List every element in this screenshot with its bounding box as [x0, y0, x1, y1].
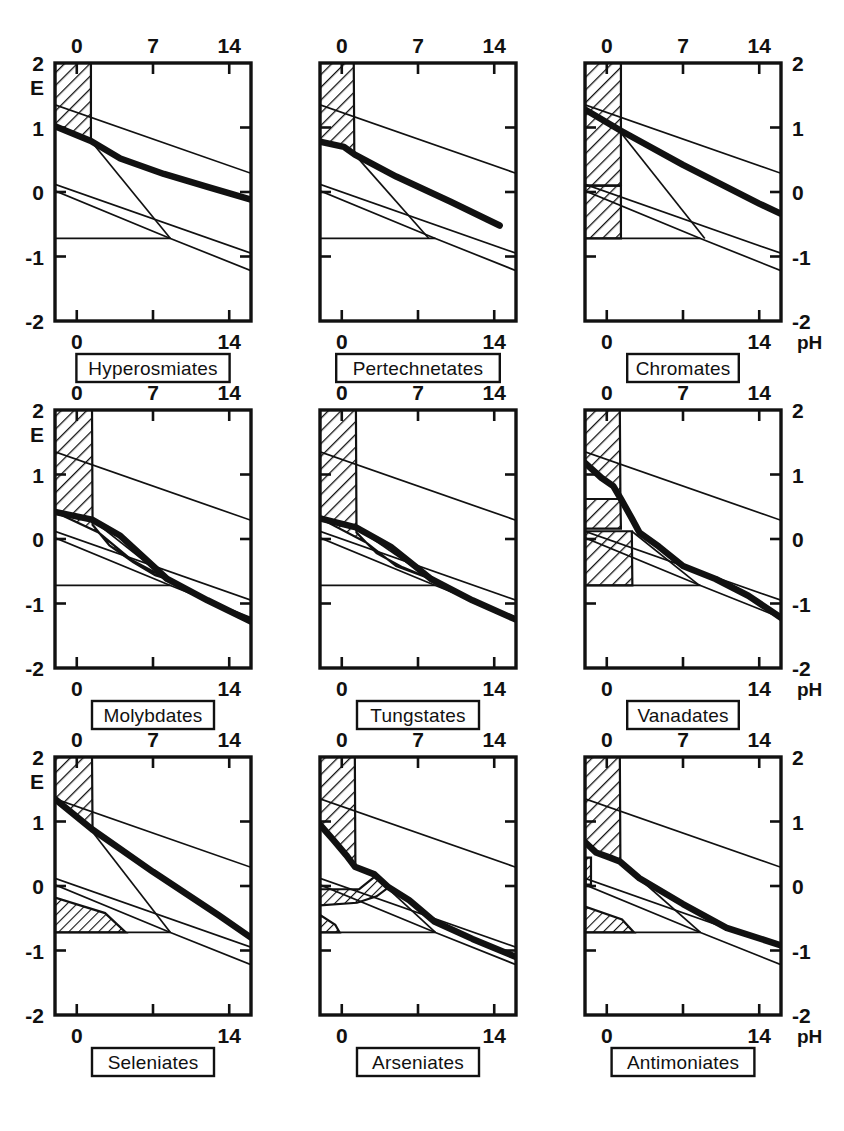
x-tick-label-top: 14 [218, 34, 242, 57]
x-tick-label-top: 0 [336, 728, 348, 751]
x-tick-label-top: 7 [412, 381, 424, 404]
y-tick-label: -1 [25, 246, 44, 269]
x-tick-label-top: 0 [71, 381, 83, 404]
x-tick-label-top: 7 [677, 34, 689, 57]
y-tick-label: 0 [32, 181, 44, 204]
x-tick-label-bottom: 0 [601, 1024, 613, 1047]
x-tick-label-top: 7 [147, 381, 159, 404]
x-axis-name: pH [797, 679, 822, 700]
figure-background [0, 0, 844, 1131]
x-tick-label-bottom: 14 [218, 677, 242, 700]
x-tick-label-bottom: 0 [336, 677, 348, 700]
x-tick-label-top: 0 [71, 34, 83, 57]
x-tick-label-bottom: 0 [71, 1024, 83, 1047]
x-tick-label-top: 14 [748, 34, 772, 57]
x-tick-label-top: 0 [71, 728, 83, 751]
pourbaix-figure: 0714014210-1-2EHyperosmiates0714014Perte… [0, 0, 844, 1131]
y-tick-label: -2 [25, 657, 44, 680]
x-tick-label-bottom: 14 [483, 677, 507, 700]
y-tick-label: 1 [32, 117, 44, 140]
y-axis-name: E [30, 770, 44, 793]
y-tick-label: 0 [32, 875, 44, 898]
panel-caption-label: Molybdates [103, 705, 202, 726]
x-tick-label-top: 7 [147, 34, 159, 57]
x-tick-label-top: 0 [601, 34, 613, 57]
y-tick-label: 1 [32, 811, 44, 834]
y-tick-label: -2 [25, 310, 44, 333]
x-tick-label-top: 7 [147, 728, 159, 751]
x-tick-label-bottom: 14 [748, 677, 772, 700]
panel-caption-label: Vanadates [637, 705, 728, 726]
y-tick-label: 2 [32, 746, 44, 769]
x-tick-label-top: 7 [677, 381, 689, 404]
x-tick-label-top: 7 [412, 728, 424, 751]
y-tick-label: 1 [792, 464, 804, 487]
y-tick-label: -2 [792, 1004, 811, 1027]
y-tick-label: 2 [32, 399, 44, 422]
x-tick-label-bottom: 0 [71, 330, 83, 353]
x-tick-label-bottom: 14 [748, 330, 772, 353]
x-tick-label-bottom: 14 [218, 330, 242, 353]
x-tick-label-top: 0 [336, 381, 348, 404]
y-tick-label: -2 [792, 310, 811, 333]
x-tick-label-bottom: 14 [483, 1024, 507, 1047]
x-tick-label-top: 14 [483, 34, 507, 57]
y-tick-label: -1 [25, 940, 44, 963]
x-tick-label-bottom: 14 [483, 330, 507, 353]
x-tick-label-bottom: 14 [748, 1024, 772, 1047]
x-tick-label-top: 14 [748, 728, 772, 751]
y-tick-label: 1 [792, 811, 804, 834]
x-tick-label-top: 14 [748, 381, 772, 404]
x-tick-label-bottom: 0 [336, 1024, 348, 1047]
x-tick-label-bottom: 0 [336, 330, 348, 353]
panel-caption-label: Seleniates [108, 1052, 199, 1073]
y-tick-label: 0 [792, 875, 804, 898]
x-tick-label-bottom: 14 [218, 1024, 242, 1047]
x-tick-label-bottom: 0 [601, 330, 613, 353]
y-tick-label: -1 [792, 940, 811, 963]
panel-caption-label: Pertechnetates [353, 358, 484, 379]
hatched-region [585, 499, 621, 529]
x-tick-label-top: 7 [677, 728, 689, 751]
y-tick-label: 0 [792, 181, 804, 204]
x-axis-name: pH [797, 332, 822, 353]
panel-caption-label: Tungstates [370, 705, 465, 726]
y-tick-label: 1 [32, 464, 44, 487]
x-tick-label-top: 14 [483, 728, 507, 751]
y-tick-label: 0 [792, 528, 804, 551]
y-tick-label: 2 [792, 399, 804, 422]
x-tick-label-top: 14 [218, 381, 242, 404]
x-tick-label-top: 0 [336, 34, 348, 57]
x-tick-label-top: 0 [601, 728, 613, 751]
y-tick-label: -1 [25, 593, 44, 616]
y-tick-label: 2 [792, 52, 804, 75]
y-tick-label: -1 [792, 593, 811, 616]
x-tick-label-top: 14 [483, 381, 507, 404]
y-axis-name: E [30, 423, 44, 446]
panel-caption-label: Antimoniates [627, 1052, 739, 1073]
x-tick-label-top: 14 [218, 728, 242, 751]
panel-caption-label: Arseniates [372, 1052, 464, 1073]
y-tick-label: -2 [792, 657, 811, 680]
x-axis-name: pH [797, 1026, 822, 1047]
y-tick-label: 0 [32, 528, 44, 551]
y-tick-label: 2 [32, 52, 44, 75]
x-tick-label-top: 7 [412, 34, 424, 57]
panel-caption-label: Chromates [636, 358, 731, 379]
y-tick-label: 1 [792, 117, 804, 140]
panel-caption-label: Hyperosmiates [88, 358, 217, 379]
y-tick-label: 2 [792, 746, 804, 769]
y-tick-label: -2 [25, 1004, 44, 1027]
y-tick-label: -1 [792, 246, 811, 269]
pourbaix-figure-svg: 0714014210-1-2EHyperosmiates0714014Perte… [0, 0, 844, 1131]
x-tick-label-top: 0 [601, 381, 613, 404]
x-tick-label-bottom: 0 [601, 677, 613, 700]
y-axis-name: E [30, 76, 44, 99]
x-tick-label-bottom: 0 [71, 677, 83, 700]
